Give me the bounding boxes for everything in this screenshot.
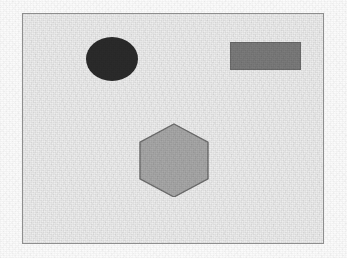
dark-ellipse-shape <box>86 37 138 81</box>
grey-rectangle-shape <box>230 42 301 70</box>
figure-canvas <box>0 0 347 258</box>
shapes-layer <box>23 14 323 243</box>
hexagon-polygon <box>140 124 208 197</box>
hexagon-svg <box>138 123 210 197</box>
figure-frame <box>22 13 324 244</box>
light-grey-hexagon-shape <box>138 123 210 197</box>
